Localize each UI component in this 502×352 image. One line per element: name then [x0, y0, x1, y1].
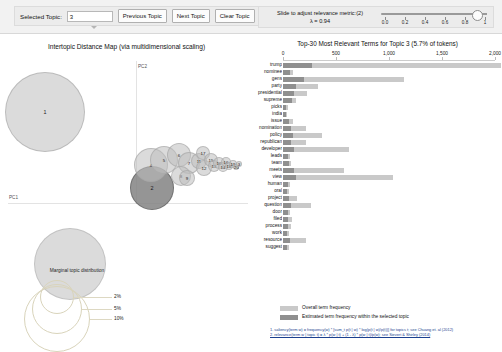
clear-topic-button[interactable]: Clear Topic	[215, 9, 255, 23]
term-label[interactable]: team	[253, 160, 282, 165]
topic-bubble-9[interactable]: 9	[179, 170, 195, 186]
term-row[interactable]: supreme	[253, 97, 502, 104]
term-row[interactable]: party	[253, 83, 502, 90]
legend-swatch-topic	[280, 315, 298, 320]
term-row[interactable]: gens	[253, 76, 502, 83]
term-row[interactable]: presidential	[253, 90, 502, 97]
term-label[interactable]: presidential	[253, 90, 282, 95]
term-row[interactable]: nomination	[253, 125, 502, 132]
term-row[interactable]: human	[253, 181, 502, 188]
term-label[interactable]: work	[253, 230, 282, 235]
slider-tick-label-1: 0.2	[402, 20, 408, 25]
term-label[interactable]: project	[253, 195, 282, 200]
footnote: 1. saliency(term w) = frequency(w) * [su…	[270, 327, 498, 338]
term-label[interactable]: developer	[253, 146, 282, 151]
legend-row-topic: Estimated term frequency within the sele…	[280, 313, 480, 322]
term-row[interactable]: leads	[253, 153, 502, 160]
term-row[interactable]: work	[253, 230, 502, 237]
selected-topic-label: Selected Topic:	[20, 13, 62, 20]
term-label[interactable]: policy	[253, 132, 282, 137]
previous-topic-button[interactable]: Previous Topic	[118, 9, 167, 23]
topic-bubble-label: 1	[6, 109, 84, 115]
legend-leader-10pct	[90, 319, 112, 320]
bar-topic-frequency	[283, 91, 294, 96]
term-row[interactable]: meets	[253, 167, 502, 174]
bar-chart-x-axis	[283, 60, 495, 61]
term-label[interactable]: process	[253, 223, 282, 228]
slider-tick-label-4: 0.8	[462, 20, 468, 25]
term-label[interactable]: human	[253, 181, 282, 186]
term-label[interactable]: leads	[253, 153, 282, 158]
panel-caret-icon	[91, 26, 97, 29]
term-row[interactable]: project	[253, 195, 502, 202]
term-label[interactable]: filed	[253, 216, 282, 221]
term-row[interactable]: trump	[253, 62, 502, 69]
term-label[interactable]: suggest	[253, 244, 282, 249]
term-label[interactable]: door	[253, 209, 282, 214]
term-row[interactable]: filed	[253, 216, 502, 223]
next-topic-button[interactable]: Next Topic	[172, 9, 210, 23]
term-row[interactable]: developer	[253, 146, 502, 153]
term-row[interactable]: suggest	[253, 244, 502, 251]
term-row[interactable]: door	[253, 209, 502, 216]
bar-topic-frequency	[283, 175, 296, 180]
legend-row-overall: Overall term frequency	[280, 304, 480, 313]
slider-handle[interactable]	[472, 10, 483, 21]
term-label[interactable]: republican	[253, 139, 282, 144]
slider-track[interactable]	[381, 13, 485, 15]
term-row[interactable]: process	[253, 223, 502, 230]
term-label[interactable]: trump	[253, 62, 282, 67]
selected-topic-input[interactable]: 3	[67, 11, 113, 22]
top-terms-bar-chart-panel: Top-30 Most Relevant Terms for Topic 3 (…	[253, 33, 502, 332]
term-row[interactable]: nominee	[253, 69, 502, 76]
topic-bubble-label: 9	[180, 176, 194, 181]
x-tick-label-1: 500	[332, 51, 340, 56]
legend-leader-5pct	[82, 309, 112, 310]
topic-bubble-3[interactable]: 3	[236, 161, 242, 167]
term-label[interactable]: gens	[253, 76, 282, 81]
term-row[interactable]: question	[253, 202, 502, 209]
bar-overall-frequency	[283, 63, 501, 68]
bar-topic-frequency	[283, 231, 287, 236]
x-tick-mark-1	[336, 57, 337, 60]
term-row[interactable]: republican	[253, 139, 502, 146]
term-row[interactable]: issue	[253, 118, 502, 125]
term-label[interactable]: meets	[253, 167, 282, 172]
term-label[interactable]: nomination	[253, 125, 282, 130]
term-label[interactable]: nominee	[253, 69, 282, 74]
term-label[interactable]: issue	[253, 118, 282, 123]
footnote-line-2[interactable]: 2. relevance(term w | topic t) = λ * p(w…	[270, 332, 498, 337]
term-row[interactable]: oral	[253, 188, 502, 195]
topic-bubble-1[interactable]: 1	[5, 72, 85, 152]
term-label[interactable]: supreme	[253, 97, 282, 102]
term-label[interactable]: resource	[253, 237, 282, 242]
term-row[interactable]: policy	[253, 132, 502, 139]
term-row[interactable]: india	[253, 111, 502, 118]
term-label[interactable]: question	[253, 202, 282, 207]
legend-label-overall: Overall term frequency	[302, 305, 351, 310]
term-label[interactable]: view	[253, 174, 282, 179]
x-tick-label-2: 1,000	[383, 51, 395, 56]
intertopic-distance-map-panel: Intertopic Distance Map (via multidimens…	[0, 33, 253, 332]
bar-topic-frequency	[283, 203, 291, 208]
term-label[interactable]: india	[253, 111, 282, 116]
bar-topic-frequency	[283, 112, 286, 117]
bar-chart-legend: Overall term frequency Estimated term fr…	[280, 304, 480, 322]
bar-chart-rows: trumpnomineegenspartypresidentialsupreme…	[253, 62, 502, 251]
bar-topic-frequency	[283, 238, 290, 243]
topic-bubble-label: 3	[237, 162, 241, 167]
term-row[interactable]: resource	[253, 237, 502, 244]
slider-tick-label-5: 1	[484, 20, 487, 25]
x-tick-label-0: 0	[282, 51, 285, 56]
term-row[interactable]: picks	[253, 104, 502, 111]
bar-topic-frequency	[283, 245, 287, 250]
term-label[interactable]: party	[253, 83, 282, 88]
bar-topic-frequency	[283, 147, 294, 152]
relevance-slider[interactable]: 0.0 0.2 0.4 0.6 0.8 1	[381, 9, 489, 27]
term-row[interactable]: team	[253, 160, 502, 167]
term-row[interactable]: view	[253, 174, 502, 181]
term-label[interactable]: oral	[253, 188, 282, 193]
term-label[interactable]: picks	[253, 104, 282, 109]
intertopic-map-title: Intertopic Distance Map (via multidimens…	[0, 43, 253, 50]
